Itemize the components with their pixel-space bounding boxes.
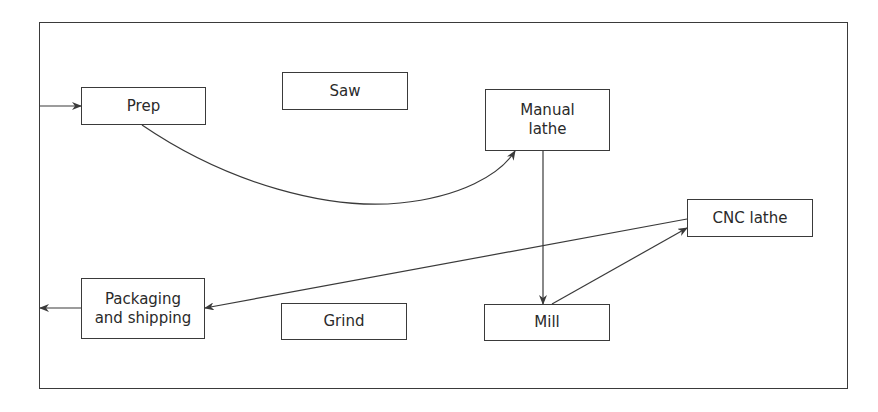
node-saw: Saw xyxy=(282,72,408,110)
edge-prep-to-manual_lathe xyxy=(142,125,515,204)
node-packaging: Packaging and shipping xyxy=(81,278,205,339)
node-label: Saw xyxy=(330,82,361,101)
node-prep: Prep xyxy=(81,87,206,125)
node-label: Prep xyxy=(127,97,160,116)
process-flow-diagram: PrepSawManual latheCNC lathePackaging an… xyxy=(0,0,878,412)
node-label: Packaging and shipping xyxy=(95,290,192,328)
node-manual-lathe: Manual lathe xyxy=(485,89,610,151)
node-grind: Grind xyxy=(281,303,407,340)
edge-mill-to-cnc_lathe xyxy=(552,228,687,304)
node-label: Manual lathe xyxy=(520,101,575,139)
node-mill: Mill xyxy=(484,304,610,341)
node-label: Grind xyxy=(324,312,365,331)
node-label: CNC lathe xyxy=(713,209,788,228)
edge-cnc_lathe-to-packaging xyxy=(205,219,687,308)
node-cnc-lathe: CNC lathe xyxy=(687,199,813,237)
node-label: Mill xyxy=(534,313,559,332)
